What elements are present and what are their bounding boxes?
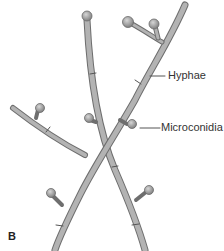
hypha-branch-left (13, 108, 85, 155)
panel-letter: B (8, 230, 16, 242)
hyphae-label: Hyphae (168, 69, 206, 81)
microconidia-label: Microconidia (161, 121, 223, 133)
